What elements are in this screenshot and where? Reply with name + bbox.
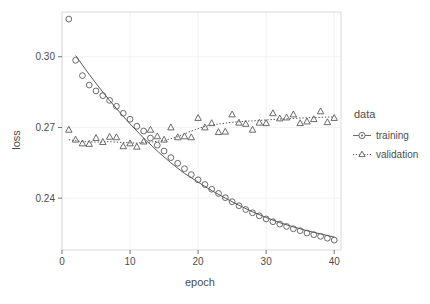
- chart-figure: 0102030400.240.270.30 epoch loss data tr…: [0, 0, 430, 304]
- gridlines: [62, 12, 341, 250]
- legend-key-triangle-icon: [352, 146, 372, 163]
- legend: data training validation: [352, 108, 430, 165]
- legend-item-validation[interactable]: validation: [352, 146, 430, 163]
- legend-title: data: [352, 108, 430, 120]
- svg-text:0: 0: [59, 256, 65, 267]
- legend-item-training[interactable]: training: [352, 127, 430, 144]
- svg-text:0.27: 0.27: [36, 122, 56, 133]
- svg-text:20: 20: [193, 256, 205, 267]
- svg-text:0.24: 0.24: [36, 193, 56, 204]
- y-axis-title: loss: [10, 110, 22, 170]
- legend-label-training: training: [372, 130, 409, 141]
- svg-text:10: 10: [124, 256, 136, 267]
- legend-key-circle-icon: [352, 127, 372, 144]
- legend-label-validation: validation: [372, 149, 418, 160]
- x-axis-title: epoch: [0, 276, 400, 288]
- svg-text:0.30: 0.30: [36, 51, 56, 62]
- svg-text:30: 30: [261, 256, 273, 267]
- svg-text:40: 40: [329, 256, 341, 267]
